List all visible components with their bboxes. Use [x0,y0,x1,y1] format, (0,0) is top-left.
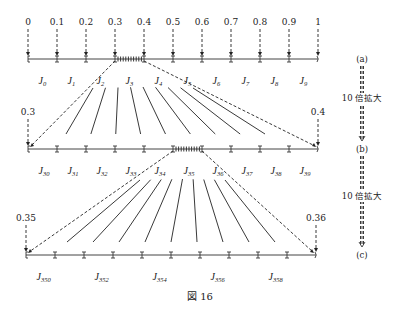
fan-ray [143,87,166,134]
arrowhead-icon [28,249,32,253]
fan-ray [131,87,141,134]
arrowhead-icon [287,52,291,56]
value-label: 0.35 [16,213,36,223]
nested-interval-diagram: 00.10.20.30.40.50.60.70.80.91J0J1J2J3J4J… [0,0,400,319]
interval-label: J0 [39,75,47,87]
arrowhead-icon [312,143,316,147]
interval-label: J32 [97,165,109,177]
arrowhead-icon [316,142,320,146]
value-label: 0.1 [50,17,64,27]
interval-label: J36 [213,165,225,177]
interval-label: J7 [242,75,250,87]
interval-label: J356 [211,271,226,283]
arrowhead-icon [26,142,30,146]
fan-ray [193,179,197,242]
zoom-factor-label: 10 倍拡大 [342,93,383,103]
value-label: 0.8 [253,17,268,27]
arrowhead-icon [171,52,175,56]
arrowhead-icon [24,248,28,252]
arrowhead-icon [84,52,88,56]
interval-label: J352 [95,271,110,283]
zoom-step-arrow: 10 倍拡大 [340,156,384,247]
arrowhead-icon [258,52,262,56]
fan-ray [119,180,161,243]
interval-label: J354 [153,271,168,283]
interval-label: J33 [126,165,138,177]
magnification-fans [28,61,316,253]
interval-label: J6 [213,75,221,87]
fan-ray [156,87,191,134]
interval-label: J30 [39,165,51,177]
interval-label: J38 [271,165,283,177]
interval-label: J3 [126,75,134,87]
value-label: 0.5 [166,17,181,27]
value-label: 0.7 [224,17,239,27]
fan-ray [193,88,265,134]
interval-label: J4 [155,75,163,87]
fan-ray [93,180,151,242]
row-label-c: (c) [356,250,367,260]
interval-label: J34 [155,165,167,177]
number-line-c: 0.350.36J350J352J354J356J358 [16,213,326,283]
arrowhead-icon [55,52,59,56]
fan-edge-right [144,61,315,146]
interval-label: J8 [271,75,279,87]
row-label-a: (a) [356,54,368,64]
value-label: 0.3 [21,107,36,117]
value-label: 0.9 [282,17,297,27]
interval-label: J2 [97,75,105,87]
fan-ray [91,88,106,134]
arrowhead-icon [314,248,318,252]
zoom-arrow-column: (a)(b)(c)10 倍拡大10 倍拡大 [340,54,384,260]
value-label: 0.4 [311,107,326,117]
interval-label: J31 [68,165,79,177]
number-line-a: 00.10.20.30.40.50.60.70.80.91J0J1J2J3J4J… [25,17,321,87]
fan-ray [66,88,93,134]
fan-ray [181,88,241,134]
arrowhead-icon [142,52,146,56]
arrowhead-icon [200,52,204,56]
fan-ray [145,179,172,242]
interval-label: J350 [37,271,52,283]
fan-edge-right [202,151,313,252]
interval-label: J9 [300,75,308,87]
row-label-b: (b) [356,144,368,154]
fan-ray [116,88,118,135]
interval-label: J37 [242,165,254,177]
fan-edge-left [31,61,115,146]
value-label: 0.3 [108,17,123,27]
interval-label: J358 [269,271,284,283]
number-line-b: 0.30.4J30J31J32J33J34J35J36J37J38J39 [21,107,326,177]
fan-ray [204,180,223,243]
value-label: 0.36 [306,213,326,223]
zoom-step-arrow: 10 倍拡大 [340,66,384,141]
interval-label: J5 [184,75,192,87]
value-label: 1 [315,17,321,27]
figure-16: 00.10.20.30.40.50.60.70.80.91J0J1J2J3J4J… [0,0,400,319]
value-label: 0.2 [79,17,93,27]
fan-a-to-b [30,61,316,147]
arrowhead-icon [26,52,30,56]
fan-edge-left [29,151,173,252]
number-lines: 00.10.20.30.40.50.60.70.80.91J0J1J2J3J4J… [16,17,326,283]
fan-ray [67,180,140,242]
interval-label: J1 [68,75,76,87]
figure-caption: 図 16 [187,291,213,302]
value-label: 0.4 [137,17,152,27]
fan-ray [171,179,183,242]
value-label: 0.6 [195,17,210,27]
interval-label: J39 [300,165,312,177]
arrowhead-icon [229,52,233,56]
arrowhead-icon [113,52,117,56]
fan-ray [225,180,275,242]
zoom-factor-label: 10 倍拡大 [342,191,383,201]
arrowhead-icon [316,52,320,56]
value-label: 0 [25,17,31,27]
fan-ray [168,88,215,135]
interval-label: J35 [184,165,196,177]
